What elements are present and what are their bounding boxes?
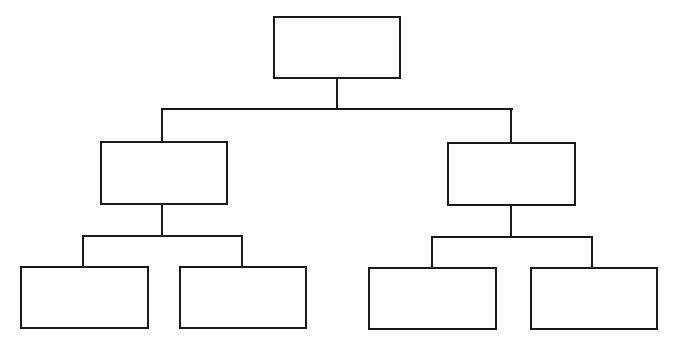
connector-root-down (336, 78, 338, 110)
connector-left-bar (82, 235, 243, 237)
connector-mid-right-down (510, 205, 512, 238)
mid-right-node (447, 142, 576, 206)
root-node (273, 16, 401, 79)
connector-to-leaf-2 (241, 235, 243, 267)
connector-to-mid-right (510, 108, 512, 143)
connector-right-bar (431, 236, 593, 238)
leaf-node-4 (530, 267, 658, 330)
connector-to-leaf-1 (82, 235, 84, 267)
leaf-node-2 (179, 266, 307, 329)
connector-to-leaf-4 (591, 236, 593, 268)
connector-level1-bar (161, 108, 513, 110)
leaf-node-1 (20, 266, 149, 329)
connector-mid-left-down (161, 204, 163, 237)
connector-to-mid-left (161, 108, 163, 142)
connector-to-leaf-3 (431, 236, 433, 268)
mid-left-node (100, 141, 228, 205)
leaf-node-3 (368, 267, 497, 330)
